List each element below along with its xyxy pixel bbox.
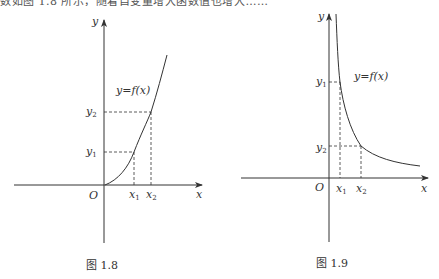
y2-label: y2	[85, 105, 97, 119]
y-axis-label: y	[317, 10, 325, 23]
origin-label: O	[89, 189, 98, 202]
caption-figure-1-8: 图 1.8	[86, 256, 118, 272]
caption-figure-1-9: 图 1.9	[316, 254, 348, 270]
guide-lines	[329, 82, 361, 178]
increasing-curve	[105, 55, 167, 185]
x1-label: x1	[129, 188, 140, 202]
x2-label: x2	[146, 188, 157, 202]
x1-label: x1	[336, 182, 347, 196]
figure-1-9: y x O y=f(x) y1 y2 x1 x2	[241, 10, 428, 242]
x2-label: x2	[356, 182, 367, 196]
x-axis-label: x	[196, 188, 203, 201]
function-label: y=f(x)	[115, 84, 150, 97]
guide-lines	[104, 112, 151, 185]
figures-canvas: y x O y=f(x) y2 y1 x1 x2 y x O y=f(x) y1…	[0, 0, 439, 279]
y1-label: y1	[85, 145, 97, 159]
figure-1-8: y x O y=f(x) y2 y1 x1 x2	[14, 15, 203, 243]
x-axis-label: x	[421, 182, 428, 195]
y2-label: y2	[315, 141, 327, 155]
y-axis-label: y	[91, 15, 99, 28]
origin-label: O	[315, 181, 324, 194]
function-label: y=f(x)	[353, 70, 388, 83]
decreasing-curve	[336, 14, 420, 166]
y1-label: y1	[315, 75, 327, 89]
